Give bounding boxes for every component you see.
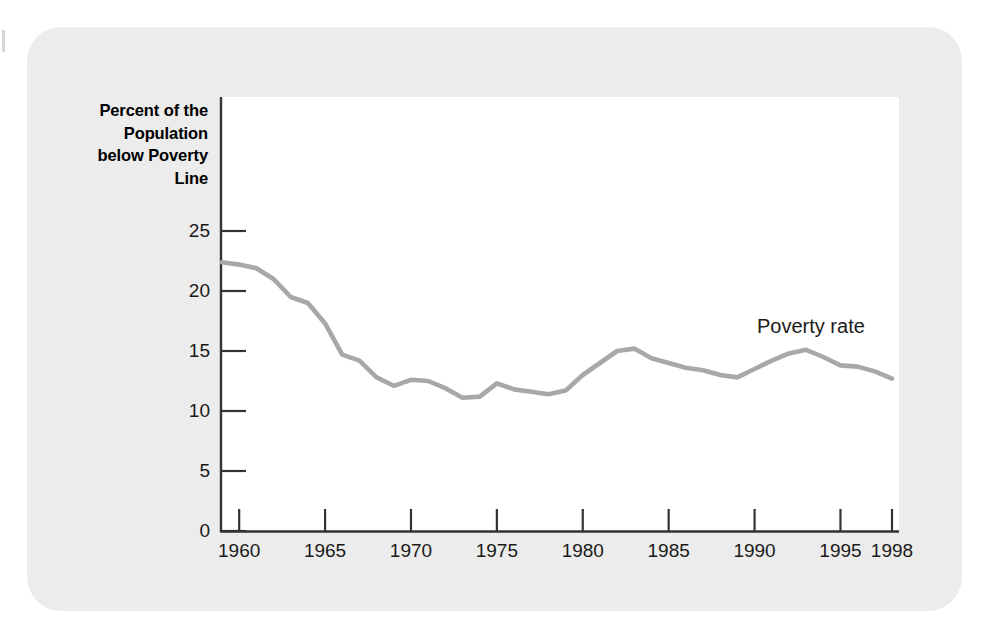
figure-root: Percent of the Population below Poverty …	[0, 0, 991, 639]
y-tick-label-10: 10	[150, 401, 210, 420]
y-tick-label-0: 0	[150, 521, 210, 540]
x-tick-label-1965: 1965	[290, 541, 360, 560]
x-tick-label-1960: 1960	[204, 541, 274, 560]
x-tick-label-1985: 1985	[634, 541, 704, 560]
x-tick-label-1990: 1990	[720, 541, 790, 560]
y-tick-label-25: 25	[150, 221, 210, 240]
y-tick-label-15: 15	[150, 341, 210, 360]
y-tick-label-20: 20	[150, 281, 210, 300]
x-tick-label-1980: 1980	[548, 541, 618, 560]
tick-marks-group	[222, 231, 892, 531]
x-tick-label-1970: 1970	[376, 541, 446, 560]
x-tick-label-1975: 1975	[462, 541, 532, 560]
y-tick-label-5: 5	[150, 461, 210, 480]
x-tick-label-1998: 1998	[857, 541, 927, 560]
series-annotation-poverty-rate: Poverty rate	[757, 315, 865, 338]
